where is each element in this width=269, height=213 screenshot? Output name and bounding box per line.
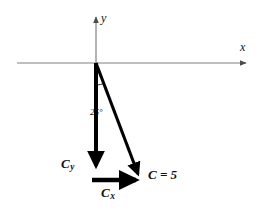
x-axis-label: x	[240, 41, 245, 53]
y-axis-label: y	[101, 12, 106, 24]
vector-cx-label-subscript: x	[110, 191, 115, 201]
vector-cy-label-base: C	[61, 156, 70, 171]
vector-cy-label: Cy	[61, 157, 74, 172]
vector-cx-label-base: C	[101, 185, 110, 200]
vector-c-arrow	[96, 63, 138, 174]
vector-cx-label: Cx	[101, 186, 115, 201]
vector-cy-label-subscript: y	[70, 162, 75, 172]
angle-label: 25°	[90, 108, 103, 117]
vector-diagram-figure: y x 25° Cy Cx C = 5	[0, 0, 269, 213]
vector-c-label: C = 5	[148, 168, 177, 181]
diagram-canvas	[0, 0, 269, 213]
